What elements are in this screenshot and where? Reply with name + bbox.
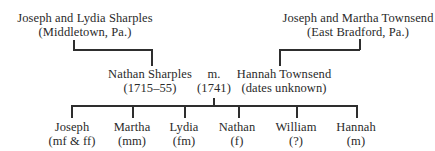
child-name: Lydia <box>170 120 199 135</box>
paternal-connector-bar <box>73 49 152 51</box>
children-bar <box>71 105 357 107</box>
child-note: (f) <box>231 134 244 149</box>
mother-dates: (dates unknown) <box>241 81 326 96</box>
child-note: (mf & ff) <box>48 134 95 149</box>
child-name: Nathan <box>219 120 256 135</box>
child-name: William <box>275 120 316 135</box>
maternal-connector-drop <box>279 49 281 66</box>
paternal-grandparents-names: Joseph and Lydia Sharples <box>17 11 152 26</box>
maternal-grandparents-place: (East Bradford, Pa.) <box>307 25 409 40</box>
child-name: Martha <box>114 120 151 135</box>
child-note: (mm) <box>118 134 146 149</box>
child-stem <box>238 105 240 118</box>
child-note: (m) <box>347 134 365 149</box>
paternal-grandparents-place: (Middletown, Pa.) <box>38 25 131 40</box>
father-name: Nathan Sharples <box>108 67 192 82</box>
child-note: (fm) <box>173 134 196 149</box>
father-dates: (1715–55) <box>124 81 177 96</box>
child-stem <box>356 105 358 118</box>
marriage-label: m. <box>207 67 220 82</box>
child-stem <box>184 105 186 118</box>
child-stem <box>296 105 298 118</box>
mother-name: Hannah Townsend <box>237 67 331 82</box>
maternal-grandparents-names: Joseph and Martha Townsend <box>282 11 433 26</box>
child-stem <box>132 105 134 118</box>
marriage-year: (1741) <box>197 81 231 96</box>
paternal-connector-drop <box>151 49 153 66</box>
child-stem <box>71 105 73 118</box>
maternal-connector-bar <box>279 49 360 51</box>
child-name: Joseph <box>55 120 90 135</box>
child-name: Hannah <box>336 120 375 135</box>
child-note: (?) <box>289 134 303 149</box>
